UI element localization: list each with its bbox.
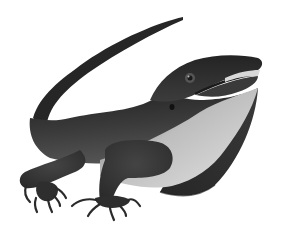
- ear-hole: [170, 104, 175, 110]
- front-foot: [95, 196, 130, 208]
- lizard-svg: [0, 0, 285, 232]
- eye-highlight: [188, 76, 190, 78]
- lizard-illustration: Grayscale illustration of a lizard with …: [0, 0, 285, 232]
